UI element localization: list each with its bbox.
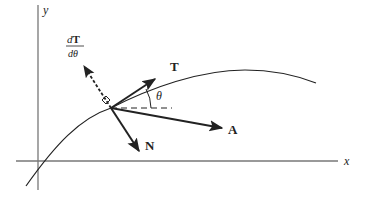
derivative-denominator: dθ (68, 48, 78, 59)
tangent-normal-diagram: y x θ T A N dT dθ (0, 0, 367, 198)
x-axis-label: x (343, 154, 350, 168)
acceleration-vector (111, 108, 222, 128)
angle-label: θ (156, 89, 162, 103)
svg-text:dT: dT (67, 33, 81, 45)
right-angle-marker (102, 96, 110, 104)
derivative-numerator-T: T (73, 33, 81, 45)
tangent-label: T (170, 59, 179, 74)
derivative-label: dT dθ (66, 33, 84, 59)
curve (26, 70, 316, 186)
derivative-vector (84, 66, 111, 108)
normal-vector (111, 108, 139, 151)
y-axis-label: y (42, 3, 49, 17)
acceleration-label: A (228, 122, 238, 137)
normal-label: N (145, 138, 155, 153)
